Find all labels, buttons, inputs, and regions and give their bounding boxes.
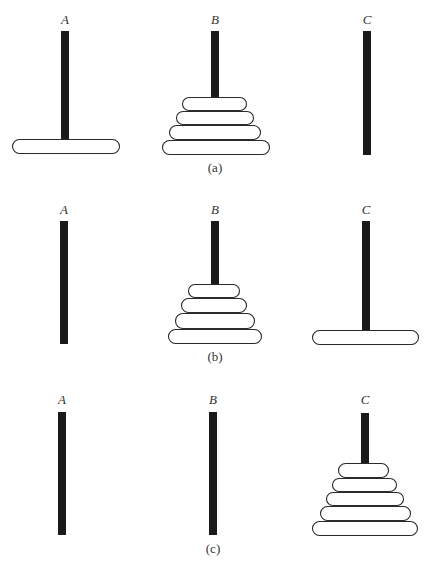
peg-c: C [363,12,372,155]
disk [333,479,397,492]
panel-caption: (b) [207,349,222,364]
disk [177,112,254,125]
peg-label: B [209,392,217,407]
peg-a: A [57,392,66,535]
peg-label: C [363,12,372,27]
pole [362,221,370,331]
peg-label: B [211,12,219,27]
pole [211,221,219,285]
disk [182,299,247,313]
peg-label: B [211,202,219,217]
pole [60,221,68,344]
disk [183,98,247,111]
disk [176,314,255,329]
pole [363,31,371,155]
disk [313,522,418,536]
disk [169,330,262,344]
peg-a: A [59,202,68,344]
tower-of-hanoi-figure: ABC(a)ABC(b)ABC(c) [0,0,428,570]
panel-caption: (a) [208,160,222,175]
pole [61,31,69,140]
disk [327,493,404,506]
peg-b: B [209,392,217,535]
pole [211,31,219,98]
peg-label: A [60,12,69,27]
peg-label: C [361,392,370,407]
disk [163,141,270,155]
peg-label: A [59,202,68,217]
pole [361,413,369,464]
peg-label: A [57,392,66,407]
disk [189,285,240,298]
panel-caption: (c) [206,541,220,556]
disk [13,140,120,154]
disk [339,464,389,478]
disk [170,126,261,140]
disk [313,331,419,345]
peg-label: C [362,202,371,217]
pole [58,412,66,535]
pole [209,412,217,535]
disk [321,507,411,521]
